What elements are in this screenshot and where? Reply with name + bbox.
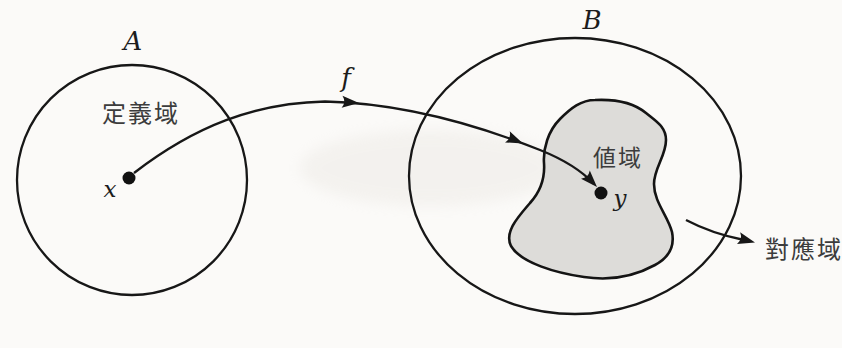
diagram-canvas: A B f x y 定義域 値域 對應域 xyxy=(0,0,842,348)
set-a-label: A xyxy=(122,26,143,56)
function-mapping-figure: A B f x y 定義域 値域 對應域 xyxy=(0,0,842,348)
f-curve-mid-arrowhead-1 xyxy=(342,96,360,109)
range-region-label: 値域 xyxy=(593,145,643,171)
set-b-label: B xyxy=(581,5,601,35)
codomain-label: 對應域 xyxy=(765,236,842,264)
scan-smudge xyxy=(300,130,560,206)
domain-region-label: 定義域 xyxy=(102,100,180,128)
point-y-dot xyxy=(595,187,608,200)
point-x-label: x xyxy=(104,176,117,202)
point-x-dot xyxy=(123,172,136,185)
function-f-label: f xyxy=(339,63,355,93)
codomain-pointer-arrow xyxy=(686,220,744,240)
point-y-label: y xyxy=(613,185,628,211)
